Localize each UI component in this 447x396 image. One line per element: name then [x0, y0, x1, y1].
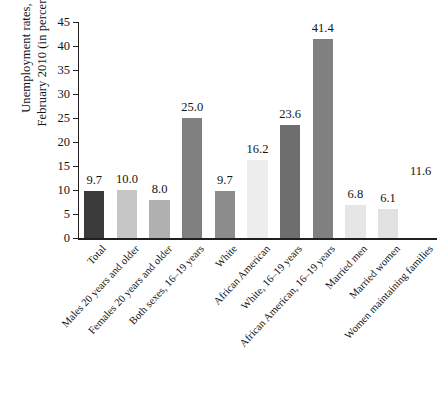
bar: 23.6	[280, 125, 300, 238]
bar-value-label: 41.4	[312, 21, 334, 36]
bar-value-label: 8.0	[152, 182, 168, 197]
y-tick-label: 10	[58, 183, 71, 198]
y-tick-label: 30	[58, 87, 71, 102]
y-tick-label: 35	[58, 63, 71, 78]
y-axis-title: Unemployment rates, February 2010 (in pe…	[14, 0, 54, 154]
y-axis-title-line-1: Unemployment rates,	[18, 3, 34, 113]
bar-value-label: 9.7	[217, 173, 233, 188]
bar: 6.1	[378, 209, 398, 238]
bar-value-label: 10.0	[116, 172, 138, 187]
bar-chart: Unemployment rates, February 2010 (in pe…	[0, 0, 447, 396]
y-axis-line	[78, 22, 79, 238]
bar: 41.4	[313, 39, 333, 238]
bar-value-label: 23.6	[279, 107, 301, 122]
x-axis-label: Total	[85, 243, 108, 267]
y-tick-mark	[73, 166, 78, 167]
bar: 9.7	[215, 191, 235, 238]
x-axis-line	[78, 238, 437, 240]
y-tick-label: 15	[58, 159, 71, 174]
y-tick-label: 25	[58, 111, 71, 126]
x-axis-label: African American	[211, 243, 272, 307]
plot-area: 051015202530354045 9.710.08.025.09.716.2…	[78, 22, 437, 238]
y-tick-label: 45	[58, 15, 71, 30]
bar: 25.0	[182, 118, 202, 238]
y-tick-mark	[73, 190, 78, 191]
bar-value-label: 6.1	[380, 191, 396, 206]
bar: 10.0	[117, 190, 137, 238]
x-axis-label: White, 16–19 years	[239, 243, 304, 312]
bar: 8.0	[149, 200, 169, 238]
y-axis-title-line-2: February 2010 (in percent)	[34, 0, 50, 126]
bar: 11.6	[411, 182, 431, 238]
bar-value-label: 16.2	[247, 142, 269, 157]
y-tick-label: 5	[64, 207, 70, 222]
y-tick-label: 40	[58, 39, 71, 54]
bar: 9.7	[84, 191, 104, 238]
bar-value-label: 9.7	[86, 173, 102, 188]
y-tick-mark	[73, 94, 78, 95]
y-tick-mark	[73, 238, 78, 239]
y-tick-mark	[73, 22, 78, 23]
y-tick-mark	[73, 46, 78, 47]
bar-value-label: 6.8	[348, 187, 364, 202]
bar: 16.2	[247, 160, 267, 238]
bar: 6.8	[345, 205, 365, 238]
x-axis-label: White	[213, 243, 239, 270]
y-tick-label: 20	[58, 135, 71, 150]
bar-value-label: 25.0	[181, 100, 203, 115]
bar-value-label: 11.6	[410, 164, 431, 179]
y-tick-label: 0	[64, 231, 70, 246]
y-tick-mark	[73, 142, 78, 143]
y-tick-mark	[73, 118, 78, 119]
y-tick-mark	[73, 70, 78, 71]
y-tick-mark	[73, 214, 78, 215]
